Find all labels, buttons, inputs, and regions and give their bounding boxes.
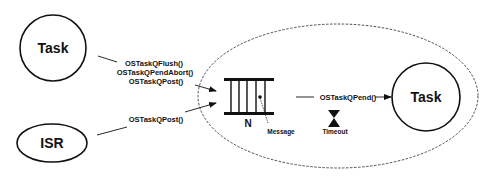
timeout-label: Timeout (322, 128, 348, 135)
receiver-task-label: Task (411, 89, 442, 105)
message-pointer (260, 98, 268, 123)
task-to-queue-arrow (195, 85, 216, 91)
timeout-hourglass-icon (328, 110, 340, 127)
task-connector (98, 56, 117, 62)
task-message-queue-diagram: Task ISR OSTaskQFlush() OSTaskQPendAbort… (0, 0, 500, 180)
sender-task-label: Task (38, 40, 69, 56)
isr-api-label-post: OSTaskQPost() (129, 115, 184, 124)
task-api-label-flush: OSTaskQFlush() (125, 59, 184, 68)
task-api-label-post: OSTaskQPost() (129, 77, 184, 86)
pend-api-label: OSTaskQPend() (320, 93, 377, 102)
isr-label: ISR (40, 135, 63, 151)
message-queue (224, 78, 274, 123)
message-label: Message (267, 128, 295, 136)
sender-task-node: Task (20, 15, 86, 81)
queue-size-label: N (244, 118, 251, 129)
isr-node: ISR (17, 124, 87, 162)
isr-to-queue-arrow (185, 103, 216, 112)
task-api-label-pendabort: OSTaskQPendAbort() (117, 68, 194, 77)
isr-connector (97, 127, 127, 135)
receiver-task-node: Task (392, 63, 460, 131)
